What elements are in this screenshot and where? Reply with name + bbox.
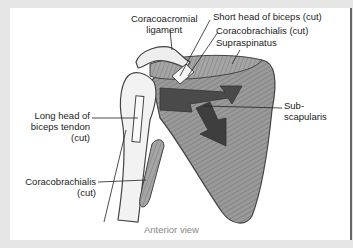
label-line: (cut) bbox=[14, 187, 96, 198]
label-coracobrachialis-bottom: Coracobrachialis (cut) bbox=[14, 176, 96, 198]
label-line: (cut) bbox=[20, 132, 90, 143]
label-long-head-biceps: Long head of biceps tendon (cut) bbox=[20, 110, 90, 143]
label-line: scapularis bbox=[284, 111, 327, 122]
label-coracoacromial-ligament: Coracoacromial ligament bbox=[131, 13, 198, 35]
label-line: ligament bbox=[131, 24, 198, 35]
label-line: biceps tendon bbox=[20, 121, 90, 132]
humerus bbox=[118, 73, 156, 222]
label-line: Long head of bbox=[20, 110, 90, 121]
label-line: Coracobrachialis bbox=[14, 176, 96, 187]
label-line: Coracoacromial bbox=[131, 13, 198, 24]
label-line: Sub- bbox=[284, 100, 327, 111]
diagram-caption: Anterior view bbox=[144, 224, 199, 235]
label-supraspinatus: Supraspinatus bbox=[216, 37, 277, 48]
label-short-head-biceps: Short head of biceps (cut) bbox=[213, 11, 322, 22]
label-coracobrachialis-top: Coracobrachialis (cut) bbox=[216, 25, 308, 36]
label-subscapularis: Sub- scapularis bbox=[284, 100, 327, 122]
